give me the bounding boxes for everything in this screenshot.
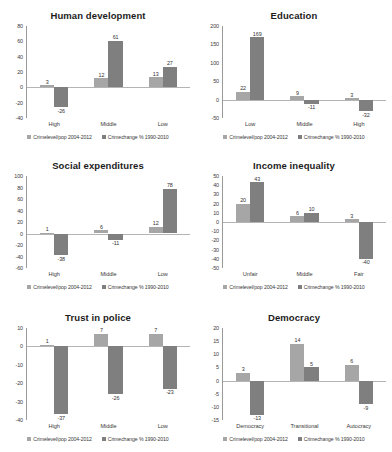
legend-item[interactable]: Crimechange % 1990-2010 xyxy=(102,436,169,442)
bar[interactable] xyxy=(163,346,177,388)
bar[interactable] xyxy=(54,87,68,107)
bar-groups: 1-386-111278 xyxy=(27,176,190,268)
legend-item[interactable]: Crimelevel/pop 2004-2012 xyxy=(223,436,287,442)
bar[interactable] xyxy=(94,78,108,87)
bar[interactable] xyxy=(94,334,108,347)
bar-value-label: 12 xyxy=(153,220,159,226)
bar-slot: 3 xyxy=(345,26,359,118)
legend-item[interactable]: Crimelevel/pop 2004-2012 xyxy=(27,134,91,140)
bar[interactable] xyxy=(250,182,264,222)
plot-canvas: 3-2612611327 xyxy=(27,26,190,118)
x-axis-tick-label: High xyxy=(332,118,386,131)
bar[interactable] xyxy=(163,67,177,88)
bar[interactable] xyxy=(40,345,54,347)
bar[interactable] xyxy=(345,365,359,381)
bar-groups: 3-2612611327 xyxy=(27,26,190,118)
y-axis: 20151050-5-10-15 xyxy=(200,328,222,420)
y-axis-tick-label: 20 xyxy=(213,201,219,207)
chart-legend: Crimelevel/pop 2004-2012Crimechange % 19… xyxy=(0,131,196,143)
legend-item[interactable]: Crimelevel/pop 2004-2012 xyxy=(223,134,287,140)
legend-item[interactable]: Crimelevel/pop 2004-2012 xyxy=(27,436,91,442)
bar[interactable] xyxy=(359,381,373,405)
y-axis-tick-label: -50 xyxy=(212,115,220,121)
y-axis-tick-label: 20 xyxy=(17,219,23,225)
bar-value-label: -26 xyxy=(112,395,120,401)
legend-item[interactable]: Crimechange % 1990-2010 xyxy=(102,134,169,140)
legend-item[interactable]: Crimechange % 1990-2010 xyxy=(298,284,365,290)
bar-slot: 6 xyxy=(94,176,108,268)
y-axis-tick-label: 0 xyxy=(20,231,23,237)
bar[interactable] xyxy=(54,234,68,256)
bar-value-label: 3 xyxy=(46,79,49,85)
bars: 3-13 xyxy=(223,328,277,420)
bar[interactable] xyxy=(236,373,250,381)
x-axis-tick-label: Low xyxy=(223,118,277,131)
legend-item[interactable]: Crimechange % 1990-2010 xyxy=(298,134,365,140)
chart-legend: Crimelevel/pop 2004-2012Crimechange % 19… xyxy=(0,281,196,293)
y-axis-tick-label: -10 xyxy=(16,362,24,368)
bar-value-label: 6 xyxy=(350,358,353,364)
bar[interactable] xyxy=(108,346,122,394)
bar[interactable] xyxy=(54,346,68,414)
bar-slot: -13 xyxy=(250,328,264,420)
bar[interactable] xyxy=(40,233,54,234)
bar-value-label: 6 xyxy=(100,224,103,230)
legend-label: Crimelevel/pop 2004-2012 xyxy=(229,436,287,442)
bar-value-label: 1 xyxy=(46,226,49,232)
legend-item[interactable]: Crimechange % 1990-2010 xyxy=(298,436,365,442)
y-axis-tick-label: 10 xyxy=(213,210,219,216)
legend-item[interactable]: Crimelevel/pop 2004-2012 xyxy=(223,284,287,290)
bar-group: 9-11 xyxy=(277,26,331,118)
bar[interactable] xyxy=(345,98,359,99)
bar[interactable] xyxy=(149,77,163,87)
y-axis-tick-label: -10 xyxy=(212,404,220,410)
bar-value-label: 3 xyxy=(350,213,353,219)
x-axis-labels: DemocracyTransitionalAutocracy xyxy=(223,420,386,433)
plot-area: 50403020100-10-20-30-40-5020436103-40 xyxy=(200,176,386,268)
bar-slot: 22 xyxy=(236,26,250,118)
y-axis-tick-label: 150 xyxy=(210,41,219,47)
bar-slot: 12 xyxy=(94,26,108,118)
plot-canvas: 1-377-267-23 xyxy=(27,328,190,420)
y-axis-tick-label: 0 xyxy=(20,343,23,349)
legend-item[interactable]: Crimechange % 1990-2010 xyxy=(102,284,169,290)
bar[interactable] xyxy=(359,222,373,259)
y-axis-tick-label: 0 xyxy=(216,378,219,384)
bar-slot: 3 xyxy=(40,26,54,118)
bar-slot: -37 xyxy=(54,328,68,420)
bar[interactable] xyxy=(290,216,304,222)
bar-value-label: 78 xyxy=(167,182,173,188)
x-axis-labels: UnfairMiddleFair xyxy=(223,268,386,281)
y-axis-tick-label: 30 xyxy=(213,191,219,197)
bar[interactable] xyxy=(108,41,122,88)
bars: 6-11 xyxy=(81,176,135,268)
y-axis-tick-label: 20 xyxy=(213,325,219,331)
bar[interactable] xyxy=(236,92,250,100)
bar[interactable] xyxy=(304,213,318,222)
bars: 3-32 xyxy=(332,26,386,118)
x-axis-labels: HighMiddleLow xyxy=(27,268,190,281)
legend-item[interactable]: Crimelevel/pop 2004-2012 xyxy=(27,284,91,290)
bar-value-label: 61 xyxy=(113,34,119,40)
bar[interactable] xyxy=(40,85,54,87)
bar[interactable] xyxy=(290,344,304,381)
bar-value-label: -38 xyxy=(57,256,65,262)
bar[interactable] xyxy=(236,204,250,222)
bar[interactable] xyxy=(250,381,264,415)
bar[interactable] xyxy=(290,96,304,99)
bar[interactable] xyxy=(163,189,177,234)
bar[interactable] xyxy=(304,100,318,104)
y-axis: 50403020100-10-20-30-40-50 xyxy=(200,176,222,268)
bar[interactable] xyxy=(149,334,163,347)
bar[interactable] xyxy=(250,37,264,99)
bar[interactable] xyxy=(304,367,318,380)
x-axis-labels: LowMiddleHigh xyxy=(223,118,386,131)
y-axis-tick-label: 0 xyxy=(216,97,219,103)
bar[interactable] xyxy=(149,227,163,234)
bars: 3-40 xyxy=(332,176,386,268)
bar-groups: 1-377-267-23 xyxy=(27,328,190,420)
bar[interactable] xyxy=(345,219,359,222)
bar[interactable] xyxy=(108,234,122,240)
bar[interactable] xyxy=(359,100,373,112)
bar[interactable] xyxy=(94,230,108,233)
